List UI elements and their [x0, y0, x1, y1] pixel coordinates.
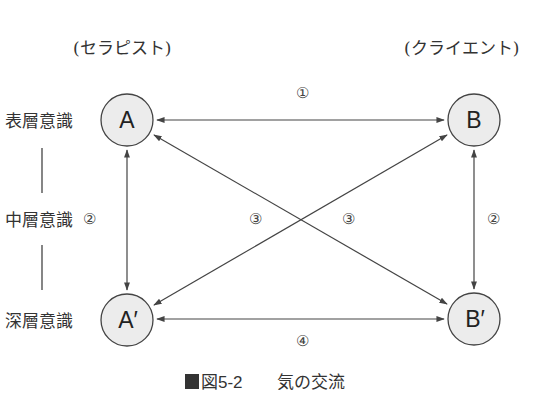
node-B-prime: B′ — [448, 293, 500, 345]
flow-label-3-left: ③ — [249, 210, 262, 228]
flow-label-4: ④ — [296, 332, 309, 350]
level-middle-label: 中層意識 — [5, 210, 73, 230]
flow-label-3-right: ③ — [342, 210, 355, 228]
flow-label-2-left: ② — [83, 210, 96, 228]
energy-exchange-diagram: (セラピスト) (クライエント) 表層意識 中層意識 深層意識 A B A′ B… — [0, 0, 534, 399]
node-B-label: B — [466, 107, 481, 133]
node-A-prime: A′ — [101, 294, 153, 346]
node-B: B — [448, 94, 500, 146]
client-label: (クライエント) — [404, 38, 519, 58]
therapist-label: (セラピスト) — [73, 38, 171, 58]
node-A-label: A — [119, 107, 135, 133]
caption-title: 気の交流 — [277, 373, 345, 392]
level-deep-label: 深層意識 — [5, 311, 73, 331]
caption-marker — [185, 374, 199, 389]
node-A-prime-label: A′ — [118, 307, 138, 333]
level-surface-label: 表層意識 — [5, 111, 73, 131]
node-B-prime-label: B′ — [465, 306, 485, 332]
caption-number: 図5-2 — [201, 373, 243, 392]
node-A: A — [101, 94, 153, 146]
flow-label-2-right: ② — [487, 210, 500, 228]
flow-label-1: ① — [296, 84, 309, 102]
